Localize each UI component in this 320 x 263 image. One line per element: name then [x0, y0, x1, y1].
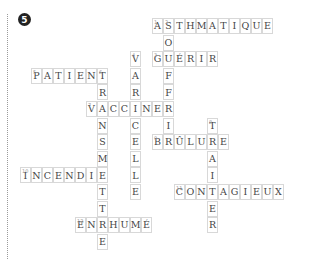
cell-letter: N — [98, 121, 106, 131]
cell-letter: F — [165, 71, 172, 81]
cell-letter: E — [253, 187, 260, 197]
cell-letter: I — [211, 171, 215, 181]
crossword-cell: P5 — [31, 68, 42, 84]
cell-letter: N — [65, 171, 73, 181]
crossword-cell: S — [97, 134, 108, 150]
crossword-cell: C — [42, 167, 53, 183]
crossword-cell: T — [53, 68, 64, 84]
cell-letter: U — [120, 220, 128, 230]
crossword-cell: U — [163, 51, 174, 67]
crossword-cell: A — [207, 151, 218, 167]
crossword-cell: N — [64, 167, 75, 183]
cell-letter: N — [197, 187, 205, 197]
cell-letter: T — [55, 71, 61, 81]
crossword-cell: M — [97, 151, 108, 167]
crossword-cell: R — [207, 217, 218, 233]
crossword-cell: T8 — [207, 118, 218, 134]
cell-letter: X — [275, 187, 282, 197]
cell-letter: I — [167, 121, 171, 131]
cell-letter: A — [132, 71, 139, 81]
cell-letter: E — [55, 171, 62, 181]
cell-letter: A — [209, 154, 216, 164]
clue-number: 3 — [154, 52, 157, 58]
cell-letter: É — [143, 220, 150, 230]
cell-letter: N — [87, 220, 95, 230]
crossword-cell: E — [218, 134, 229, 150]
crossword-cell: B9 — [152, 134, 163, 150]
clue-number: 2 — [165, 19, 168, 25]
crossword-cell: T — [174, 18, 185, 34]
cell-letter: T — [99, 204, 105, 214]
crossword-cell: V4 — [130, 51, 141, 67]
cell-letter: Û — [175, 137, 183, 147]
crossword-cell: I — [207, 167, 218, 183]
crossword-cell: M — [196, 18, 207, 34]
cell-letter: T — [209, 187, 215, 197]
cell-letter: I — [134, 104, 138, 114]
cell-letter: L — [132, 154, 138, 164]
crossword-cell: D — [75, 167, 86, 183]
crossword-cell: E — [75, 68, 86, 84]
crossword-cell: I — [86, 167, 97, 183]
clue-number: 8 — [209, 119, 212, 125]
crossword-cell: I10 — [20, 167, 31, 183]
cell-letter: U — [197, 137, 205, 147]
cell-letter: O — [165, 38, 173, 48]
cell-letter: É — [176, 54, 183, 64]
cell-letter: M — [98, 154, 108, 164]
clue-number: 4 — [132, 52, 135, 58]
crossword-cell: O — [163, 35, 174, 51]
crossword-cell: N — [196, 184, 207, 200]
cell-letter: C — [121, 104, 128, 114]
cell-letter: D — [77, 171, 85, 181]
crossword-cell: O — [185, 184, 196, 200]
cell-letter: E — [132, 137, 139, 147]
cell-letter: R — [209, 54, 216, 64]
crossword-cell: I — [163, 118, 174, 134]
crossword-cell: R — [163, 134, 174, 150]
crossword-cell: E — [251, 184, 262, 200]
crossword-cell: E — [53, 167, 64, 183]
crossword-cell: T — [97, 184, 108, 200]
cell-letter: E — [99, 237, 106, 247]
cell-letter: F — [165, 88, 172, 98]
cell-letter: N — [142, 104, 150, 114]
cell-letter: M — [197, 21, 207, 31]
clue-number: 11 — [176, 185, 182, 191]
cell-letter: E — [77, 71, 84, 81]
crossword-cell: E — [97, 234, 108, 250]
crossword-cell: G3 — [152, 51, 163, 67]
cell-letter: L — [132, 171, 138, 181]
cell-letter: A — [44, 71, 51, 81]
clue-number: 9 — [154, 135, 157, 141]
cell-letter: Q — [242, 21, 250, 31]
cell-letter: T — [176, 21, 182, 31]
crossword-cell: A — [130, 68, 141, 84]
cell-letter: U — [164, 54, 172, 64]
cell-letter: U — [252, 21, 260, 31]
crossword-cell: R — [207, 51, 218, 67]
crossword-cell: R — [130, 84, 141, 100]
cell-letter: N — [87, 71, 95, 81]
crossword-cell: H — [185, 18, 196, 34]
crossword-cell: U — [196, 134, 207, 150]
cell-letter: L — [187, 137, 193, 147]
crossword-cell: E — [130, 134, 141, 150]
crossword-cell: I — [130, 101, 141, 117]
crossword-cell: I — [196, 51, 207, 67]
crossword-cell: T6 — [97, 68, 108, 84]
crossword-cell: R — [207, 134, 218, 150]
crossword-cell: É — [174, 51, 185, 67]
cell-letter: I — [68, 71, 72, 81]
crossword-cell: N — [141, 101, 152, 117]
cell-letter: A — [209, 21, 216, 31]
crossword-cell: U — [119, 217, 130, 233]
crossword-cell: Q — [240, 18, 251, 34]
cell-letter: R — [187, 54, 194, 64]
crossword-cell: I — [64, 68, 75, 84]
crossword-cell: A — [97, 101, 108, 117]
crossword-cell: A — [218, 184, 229, 200]
crossword-cell: R — [97, 84, 108, 100]
crossword-cell: E12 — [75, 217, 86, 233]
clue-number: 7 — [88, 102, 91, 108]
